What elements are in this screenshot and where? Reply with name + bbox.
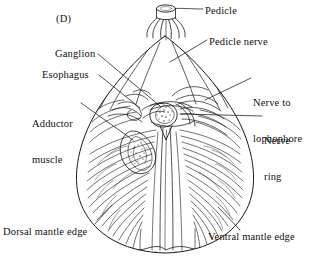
mantle-folds-upper [100,40,228,110]
leader-ganglion [98,54,160,106]
label-pedicle: Pedicle [205,5,237,17]
label-nerve-to-lophophore-line1: Nerve to [253,97,302,109]
dorsal-nerve-branches [95,146,133,229]
label-ganglion: Ganglion [55,48,95,60]
leader-ventral-mantle [218,207,240,230]
label-dorsal-mantle-edge: Dorsal mantle edge [3,226,87,238]
pedicle-structure [157,5,176,20]
leader-pedicle [176,8,204,9]
median-septum [152,126,182,250]
ventral-mantle-nerves [180,110,243,250]
label-adductor-muscle: Adductor muscle [32,94,73,190]
label-adductor-muscle-line1: Adductor [32,118,73,130]
label-nerve-ring-line1: Nerve [264,135,290,147]
dorsal-mantle-nerves [87,100,156,250]
label-esophagus: Esophagus [42,69,89,81]
label-ventral-mantle-edge: Ventral mantle edge [208,231,295,243]
esophagus-gut [108,90,165,122]
anatomical-figure: (D) Pedicle Pedicle nerve Ganglion Esoph… [0,0,329,272]
panel-letter: (D) [56,13,71,24]
label-pedicle-nerve: Pedicle nerve [209,36,268,48]
nerve-to-lophophore [172,87,227,135]
label-adductor-muscle-line2: muscle [32,154,73,166]
label-nerve-ring: Nerve ring [264,111,290,207]
label-nerve-ring-line2: ring [264,171,290,183]
